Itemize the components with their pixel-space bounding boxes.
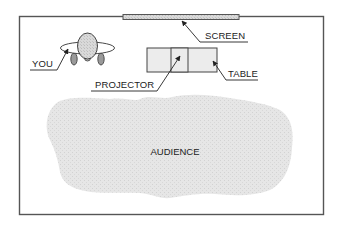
screen-label: SCREEN: [205, 30, 245, 41]
table: [147, 48, 217, 72]
screen: [123, 15, 239, 20]
projector: [171, 48, 188, 72]
diagram-canvas: SCREEN TABLE PROJECTOR YOU AUDIENCE: [0, 0, 350, 229]
projector-label: PROJECTOR: [95, 79, 154, 90]
table-label: TABLE: [228, 68, 258, 79]
you-label: YOU: [32, 58, 53, 69]
room-diagram: SCREEN TABLE PROJECTOR YOU AUDIENCE: [0, 0, 350, 229]
audience-label: AUDIENCE: [150, 146, 199, 157]
